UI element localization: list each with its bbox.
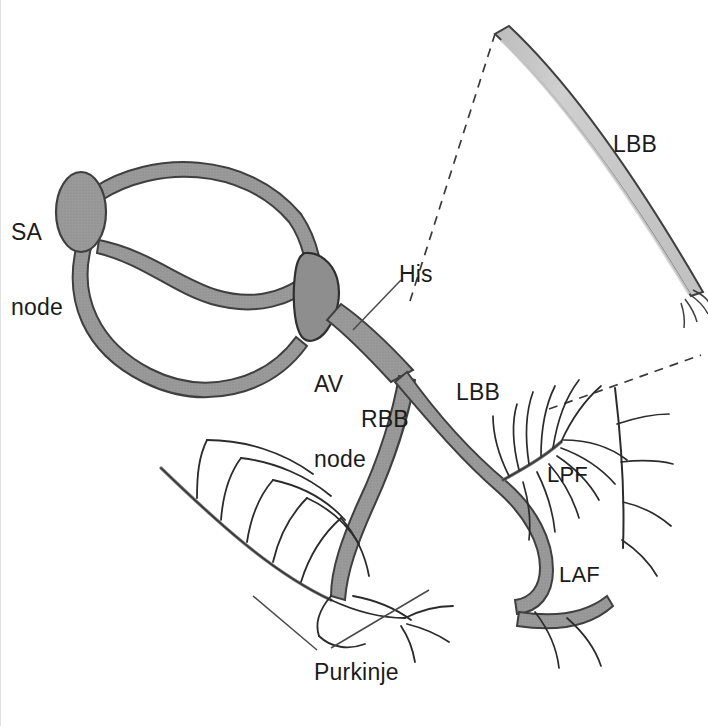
label-laf: LAF bbox=[559, 562, 600, 587]
conduction-system-figure: SA node AV node His RBB LBB LBB LPF LAF … bbox=[0, 0, 708, 726]
label-lbb-main: LBB bbox=[456, 380, 500, 405]
purkinje-leader-line-a bbox=[253, 596, 317, 650]
internodal-lower bbox=[73, 244, 307, 397]
label-av-node: AV node bbox=[314, 322, 366, 522]
atrial-conduction-tracts bbox=[56, 162, 339, 397]
label-av-node-line2: node bbox=[314, 447, 366, 472]
label-lbb-inset: LBB bbox=[613, 132, 657, 157]
label-lpf: LPF bbox=[547, 462, 588, 487]
label-rbb: RBB bbox=[361, 407, 409, 432]
label-purkinje: Purkinje bbox=[314, 660, 399, 685]
label-sa-node-line1: SA bbox=[11, 220, 63, 245]
label-his: His bbox=[399, 262, 433, 287]
label-sa-node: SA node bbox=[11, 170, 63, 370]
bachmann-sigmoid bbox=[97, 240, 318, 309]
label-sa-node-line2: node bbox=[11, 295, 63, 320]
purkinje-right-network bbox=[161, 440, 453, 662]
lbb-magnified-band bbox=[495, 26, 708, 328]
sa-node-body bbox=[56, 172, 106, 252]
label-av-node-line1: AV bbox=[314, 372, 366, 397]
